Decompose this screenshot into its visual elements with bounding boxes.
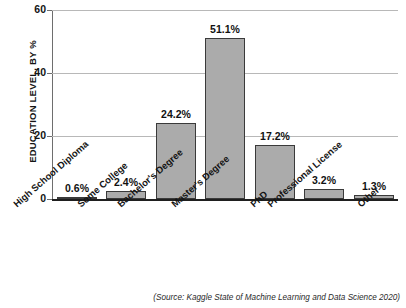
x-axis-category-labels: High School Diploma Some College Bachelo… xyxy=(52,201,398,281)
bar-value-phd: 17.2% xyxy=(250,130,300,142)
bar-professional-license[interactable] xyxy=(304,189,344,199)
y-tick-label-40: 40 xyxy=(22,67,46,78)
bars-layer: 0.6% 2.4% 24.2% 51.1% 17.2% 3.2% 1.3% xyxy=(52,10,398,199)
bar-value-bachelors-degree: 24.2% xyxy=(151,108,201,120)
y-tick-label-20: 20 xyxy=(22,130,46,141)
source-caption: (Source: Kaggle State of Machine Learnin… xyxy=(153,293,400,302)
education-level-bar-chart: EDUCATION LEVEL, BY % 60 40 20 0 0.6% 2.… xyxy=(0,0,406,308)
y-tick-label-60: 60 xyxy=(22,4,46,15)
bar-value-masters-degree: 51.1% xyxy=(200,23,250,35)
y-axis-tick-labels: 60 40 20 0 xyxy=(20,0,46,308)
plot-area: 0.6% 2.4% 24.2% 51.1% 17.2% 3.2% 1.3% xyxy=(52,10,398,199)
